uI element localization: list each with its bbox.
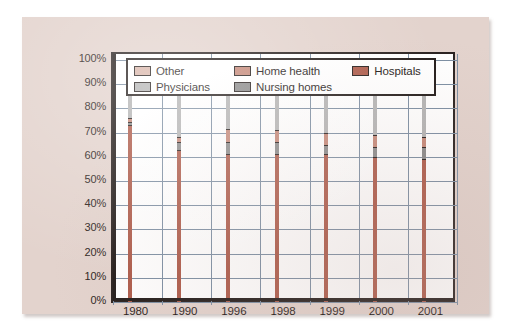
grid-line-vertical (457, 54, 458, 305)
bar-segment-nursing-homes[interactable] (128, 122, 132, 126)
y-axis-line (113, 54, 116, 301)
x-axis-tick-label-2001: 2001 (405, 305, 455, 317)
x-axis-tick-label-1998: 1998 (258, 305, 308, 317)
grid-line-horizontal (113, 133, 457, 134)
grid-line-horizontal (113, 229, 457, 230)
bar-segment-home-health[interactable] (373, 135, 377, 147)
x-axis-tick-label-2000: 2000 (356, 305, 406, 317)
chart-legend: OtherHome healthHospitalsPhysiciansNursi… (126, 58, 436, 96)
bar-segment-home-health[interactable] (177, 137, 181, 142)
legend-item-empty (352, 79, 430, 95)
y-axis-tick-label: 100% (79, 53, 106, 64)
bar-1998[interactable] (275, 60, 279, 302)
legend-label: Home health (256, 65, 320, 77)
x-axis-tick-label-1999: 1999 (307, 305, 357, 317)
y-axis-tick-label: 0% (91, 295, 107, 306)
grid-line-horizontal (113, 108, 457, 109)
y-axis-tick-label: 70% (85, 126, 106, 137)
legend-row: OtherHome healthHospitals (134, 63, 430, 79)
x-axis-tick-label-1980: 1980 (111, 305, 161, 317)
scanned-page: 100%90%80%70%60%50%40%30%20%10%0% 198019… (0, 0, 511, 333)
bar-segment-home-health[interactable] (275, 130, 279, 142)
bar-segment-nursing-homes[interactable] (422, 147, 426, 159)
paper-background: 100%90%80%70%60%50%40%30%20%10%0% 198019… (22, 17, 489, 314)
bar-2000[interactable] (373, 60, 377, 302)
bar-segment-hospitals[interactable] (177, 150, 181, 302)
bar-1980[interactable] (128, 60, 132, 302)
bar-segment-nursing-homes[interactable] (226, 142, 230, 154)
bar-1990[interactable] (177, 60, 181, 302)
bar-1996[interactable] (226, 60, 230, 302)
bar-segment-home-health[interactable] (324, 133, 328, 145)
grid-line-horizontal (113, 278, 457, 279)
y-axis-tick-label: 40% (85, 198, 106, 209)
bar-segment-nursing-homes[interactable] (324, 145, 328, 155)
y-axis-tick-label: 90% (85, 77, 106, 88)
legend-item-physicians[interactable]: Physicians (134, 79, 234, 95)
legend-swatch-icon (234, 66, 251, 76)
bar-segment-hospitals[interactable] (226, 154, 230, 302)
bar-segment-home-health[interactable] (422, 137, 426, 147)
bar-segment-hospitals[interactable] (128, 125, 132, 302)
grid-line-horizontal (113, 205, 457, 206)
bar-segment-home-health[interactable] (128, 118, 132, 122)
bar-segment-hospitals[interactable] (324, 154, 328, 302)
legend-item-nursing-homes[interactable]: Nursing homes (234, 79, 352, 95)
x-axis-tick-label-1996: 1996 (209, 305, 259, 317)
grid-line-horizontal (113, 157, 457, 158)
bar-2001[interactable] (422, 60, 426, 302)
bar-segment-home-health[interactable] (226, 129, 230, 142)
legend-item-home-health[interactable]: Home health (234, 63, 352, 79)
legend-item-other[interactable]: Other (134, 63, 234, 79)
bar-segment-hospitals[interactable] (422, 159, 426, 302)
legend-swatch-icon (134, 82, 151, 92)
legend-label: Physicians (156, 81, 210, 93)
y-axis-tick-label: 50% (85, 174, 106, 185)
grid-line-horizontal (113, 181, 457, 182)
x-axis-tick-label-1990: 1990 (160, 305, 210, 317)
y-axis-tick-label: 80% (85, 101, 106, 112)
y-axis-tick-label: 30% (85, 222, 106, 233)
bar-1999[interactable] (324, 60, 328, 302)
legend-swatch-icon (234, 82, 251, 92)
bar-segment-nursing-homes[interactable] (177, 142, 181, 149)
bar-segment-nursing-homes[interactable] (275, 142, 279, 154)
legend-item-hospitals[interactable]: Hospitals (352, 63, 430, 79)
legend-swatch-icon (352, 66, 369, 76)
x-axis-line (113, 298, 453, 301)
legend-label: Hospitals (374, 65, 420, 77)
legend-label: Nursing homes (256, 81, 332, 93)
y-axis-labels: 100%90%80%70%60%50%40%30%20%10%0% (58, 52, 106, 303)
legend-label: Other (156, 65, 184, 77)
y-axis-tick-label: 20% (85, 247, 106, 258)
x-axis-labels: 1980199019961998199920002001 (111, 305, 455, 323)
legend-row: PhysiciansNursing homes (134, 79, 430, 95)
grid-line-horizontal (113, 302, 457, 303)
y-axis-tick-label: 60% (85, 150, 106, 161)
legend-swatch-icon (134, 66, 151, 76)
bar-segment-nursing-homes[interactable] (373, 147, 377, 157)
bar-segment-hospitals[interactable] (373, 157, 377, 302)
y-axis-tick-label: 10% (85, 271, 106, 282)
grid-line-horizontal (113, 254, 457, 255)
bar-segment-hospitals[interactable] (275, 154, 279, 302)
